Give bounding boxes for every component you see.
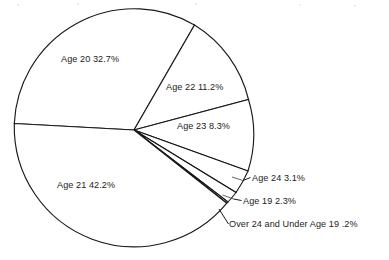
slice-label-age-23: Age 23 8.3% — [177, 121, 230, 131]
slice-label-age-19: Age 19 2.3% — [243, 196, 296, 206]
slice-label-over-24-under-19: Over 24 and Under Age 19 .2% — [229, 219, 358, 229]
leader-line-age-19 — [234, 199, 242, 201]
slice-label-age-24: Age 24 3.1% — [252, 173, 305, 183]
pie-chart: Age 20 32.7% Age 22 11.2% Age 23 8.3% Ag… — [0, 0, 389, 260]
slice-label-age-21: Age 21 42.2% — [57, 180, 115, 190]
slice-label-age-20: Age 20 32.7% — [61, 54, 119, 64]
leader-line-over-24-under-19 — [219, 209, 229, 224]
slice-label-age-22: Age 22 11.2% — [166, 82, 223, 92]
